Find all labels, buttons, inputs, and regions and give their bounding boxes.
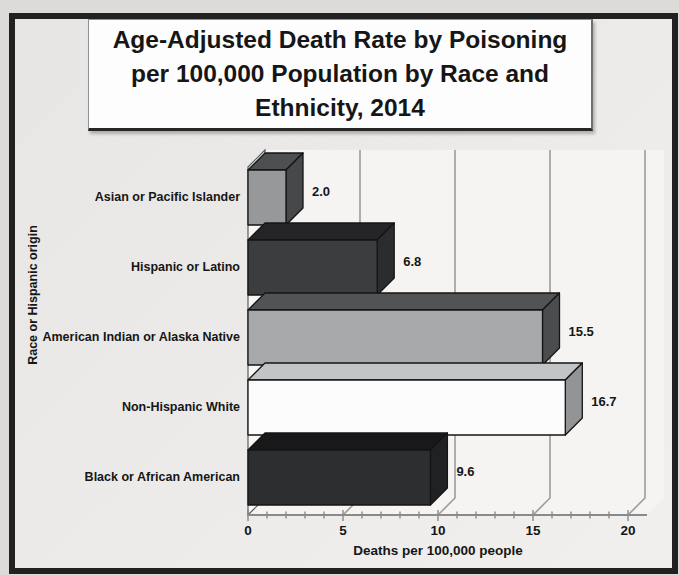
x-axis-title: Deaths per 100,000 people (353, 543, 523, 558)
bar-american-indian-or-alaska-native (248, 293, 560, 365)
bar-black-or-african-american (248, 433, 447, 505)
bar-top-face (248, 223, 394, 240)
category-label: American Indian or Alaska Native (42, 330, 240, 344)
category-label: Non-Hispanic White (122, 400, 240, 414)
bar-value-label: 9.6 (456, 464, 474, 479)
x-tick-label: 5 (339, 523, 347, 538)
x-tick-label: 15 (525, 523, 541, 538)
x-tick-label: 10 (430, 523, 445, 538)
bar-top-face (248, 363, 582, 380)
bar-front-face (248, 170, 286, 225)
chart-title-line-3: Ethnicity, 2014 (255, 91, 425, 125)
chart-title: Age-Adjusted Death Rate by Poisoning per… (88, 19, 593, 131)
bar-asian-or-pacific-islander (248, 153, 303, 225)
category-label: Black or African American (85, 470, 240, 484)
bar-value-label: 6.8 (403, 254, 421, 269)
bar-top-face (248, 293, 560, 310)
bar-value-label: 15.5 (569, 324, 594, 339)
bar-front-face (248, 310, 543, 365)
bar-non-hispanic-white (248, 363, 582, 435)
category-label: Hispanic or Latino (131, 260, 240, 274)
bar-hispanic-or-latino (248, 223, 394, 295)
chart-title-line-1: Age-Adjusted Death Rate by Poisoning (113, 23, 568, 57)
chart-title-line-2: per 100,000 Population by Race and (131, 57, 549, 91)
y-axis-title: Race or Hispanic origin (26, 225, 40, 365)
slide-screenshot: Age-Adjusted Death Rate by Poisoning per… (0, 0, 679, 575)
bar-front-face (248, 380, 565, 435)
bar-value-label: 2.0 (312, 184, 330, 199)
bar-front-face (248, 450, 430, 505)
bar-front-face (248, 240, 377, 295)
category-label: Asian or Pacific Islander (95, 190, 240, 204)
bar-top-face (248, 433, 447, 450)
bar-value-label: 16.7 (591, 394, 616, 409)
x-tick-label: 0 (244, 523, 252, 538)
x-tick-label: 20 (620, 523, 635, 538)
